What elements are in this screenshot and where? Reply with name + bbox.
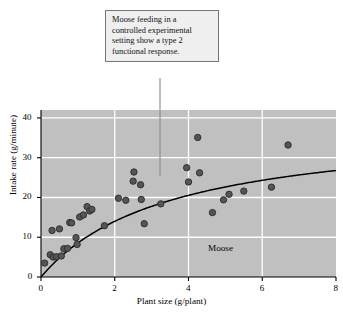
data-point xyxy=(195,134,201,140)
inline-series-label: Moose xyxy=(208,243,233,253)
data-point xyxy=(56,226,62,232)
x-tick-label: 4 xyxy=(186,283,191,293)
y-tick-label: 0 xyxy=(28,271,33,281)
x-tick-label: 2 xyxy=(112,283,117,293)
data-point xyxy=(89,206,95,212)
data-point xyxy=(285,142,291,148)
data-point xyxy=(73,234,79,240)
x-axis-title: Plant size (g/plant) xyxy=(0,296,343,306)
data-point xyxy=(101,223,107,229)
data-point xyxy=(68,220,74,226)
data-point xyxy=(185,179,191,185)
data-point xyxy=(268,184,274,190)
callout-line-4: functional response. xyxy=(112,47,213,58)
callout-annotation: Moose feeding in a controlled experiment… xyxy=(105,10,219,62)
data-point xyxy=(137,182,143,188)
data-point xyxy=(49,227,55,233)
x-tick-label: 8 xyxy=(333,283,338,293)
data-point xyxy=(158,201,164,207)
data-point xyxy=(241,188,247,194)
data-point xyxy=(58,253,64,259)
data-point xyxy=(209,209,215,215)
y-tick-label: 30 xyxy=(23,152,32,162)
x-tick-label: 0 xyxy=(38,283,43,293)
data-point xyxy=(130,178,136,184)
data-point xyxy=(226,191,232,197)
data-point xyxy=(123,197,129,203)
callout-line-1: Moose feeding in a xyxy=(112,15,213,26)
data-point xyxy=(115,195,121,201)
data-point xyxy=(80,212,86,218)
data-point xyxy=(141,221,147,227)
y-tick-label: 10 xyxy=(23,231,32,241)
callout-line-2: controlled experimental xyxy=(112,26,213,37)
x-tick-label: 6 xyxy=(260,283,265,293)
data-point xyxy=(138,196,144,202)
data-point xyxy=(183,164,189,170)
callout-line-3: setting show a type 2 xyxy=(112,36,213,47)
data-point xyxy=(131,169,137,175)
data-point xyxy=(64,245,70,251)
data-point xyxy=(220,197,226,203)
data-point xyxy=(74,241,80,247)
data-point xyxy=(196,170,202,176)
y-tick-label: 20 xyxy=(23,191,32,201)
y-tick-label: 40 xyxy=(23,112,32,122)
y-axis-title: Intake rate (g/minute) xyxy=(8,80,18,230)
data-point xyxy=(41,260,47,266)
